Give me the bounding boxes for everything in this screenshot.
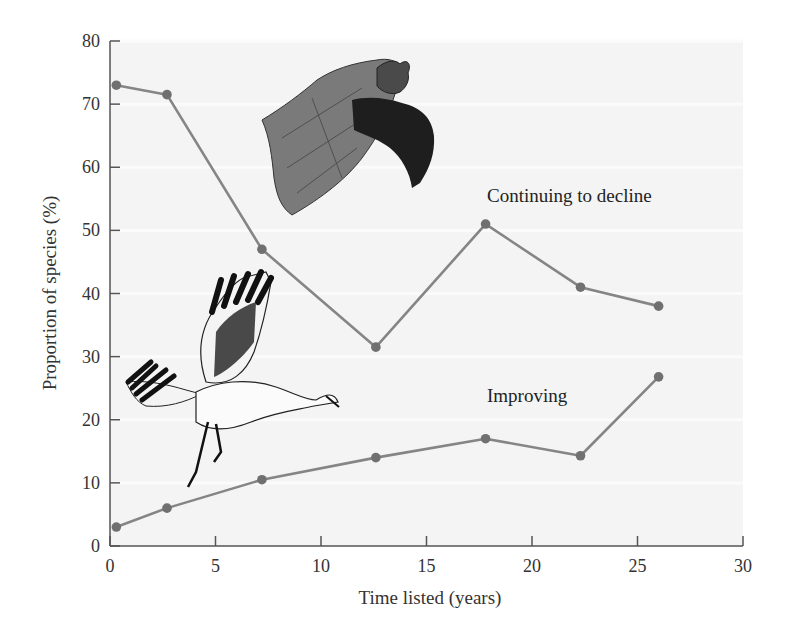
data-point xyxy=(481,434,491,444)
x-tick-label: 25 xyxy=(629,556,647,576)
data-point xyxy=(257,245,267,255)
y-tick-label: 20 xyxy=(82,410,100,430)
x-tick-label: 0 xyxy=(106,556,115,576)
data-point xyxy=(576,451,586,461)
data-point xyxy=(576,282,586,292)
data-point xyxy=(162,503,172,513)
x-tick-label: 5 xyxy=(211,556,220,576)
x-tick-label: 20 xyxy=(523,556,541,576)
y-tick-label: 30 xyxy=(82,347,100,367)
data-point xyxy=(654,372,664,382)
y-tick-label: 80 xyxy=(82,31,100,51)
data-point xyxy=(257,475,267,485)
y-tick-label: 70 xyxy=(82,94,100,114)
label-continuing-to-decline: Continuing to decline xyxy=(487,185,652,206)
data-point xyxy=(481,219,491,229)
x-tick-label: 10 xyxy=(312,556,330,576)
data-point xyxy=(112,522,122,532)
y-tick-label: 60 xyxy=(82,157,100,177)
x-tick-label: 30 xyxy=(734,556,752,576)
data-point xyxy=(654,301,664,311)
y-axis-title: Proportion of species (%) xyxy=(39,196,61,391)
data-point xyxy=(371,342,381,352)
data-point xyxy=(162,90,172,100)
label-improving: Improving xyxy=(487,385,568,406)
y-tick-label: 0 xyxy=(91,536,100,556)
y-tick-label: 10 xyxy=(82,473,100,493)
data-point xyxy=(371,453,381,463)
chart: 01020304050607080051015202530 Continuing… xyxy=(0,0,791,642)
y-tick-label: 40 xyxy=(82,284,100,304)
data-point xyxy=(112,80,122,90)
chart-canvas: 01020304050607080051015202530 Continuing… xyxy=(0,0,791,642)
x-tick-label: 15 xyxy=(418,556,436,576)
x-axis-title: Time listed (years) xyxy=(359,587,502,609)
y-tick-label: 50 xyxy=(82,220,100,240)
